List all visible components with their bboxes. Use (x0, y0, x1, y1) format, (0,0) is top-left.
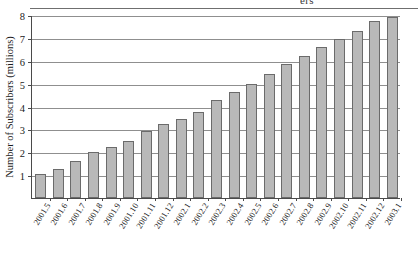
x-tick-label: 2001.5 (31, 201, 52, 227)
y-tick-label-1: 1 (20, 171, 25, 182)
bar-series (32, 16, 400, 198)
y-tick-label-3: 3 (20, 125, 25, 136)
bar (35, 174, 46, 198)
cut-off-header-label: ers (300, 0, 314, 6)
bar (316, 47, 327, 198)
y-axis-title: Number of Subscribers (millions) (4, 12, 18, 202)
top-border-rule (30, 8, 418, 9)
x-tick-label: 2002.4 (224, 201, 245, 227)
y-tick-label-6: 6 (20, 56, 25, 67)
bar (229, 92, 240, 198)
bar (193, 112, 204, 198)
cut-off-header-text: ers (300, 0, 418, 7)
x-axis-labels: 2001.52001.62001.72001.82001.92001.10200… (31, 201, 400, 261)
plot-area: 12345678 (31, 16, 400, 199)
bar (352, 31, 363, 198)
bar (369, 21, 380, 198)
bar (88, 152, 99, 198)
chart-figure: ers Number of Subscribers (millions) 123… (0, 0, 418, 261)
bar (264, 74, 275, 198)
bar (106, 147, 117, 198)
x-tick-label: 2001.7 (66, 201, 87, 227)
y-tick-label-5: 5 (20, 79, 25, 90)
y-tick-label-7: 7 (20, 33, 25, 44)
bar (176, 119, 187, 198)
y-tick-label-4: 4 (20, 102, 25, 113)
x-tick-label: 2002.2 (189, 201, 210, 227)
x-tick-label: 2002.7 (277, 201, 298, 227)
y-tick-label-2: 2 (20, 148, 25, 159)
x-tick (401, 198, 402, 201)
bar (387, 17, 398, 198)
y-tick-label-8: 8 (20, 11, 25, 22)
bar (70, 161, 81, 198)
bar (211, 100, 222, 198)
bar (299, 56, 310, 198)
bar (141, 131, 152, 198)
bar (123, 141, 134, 198)
bar (281, 64, 292, 198)
bar (334, 39, 345, 198)
bar (53, 169, 64, 198)
bar (158, 124, 169, 198)
bar (246, 84, 257, 198)
x-tick-label: 2002.5 (242, 201, 263, 227)
